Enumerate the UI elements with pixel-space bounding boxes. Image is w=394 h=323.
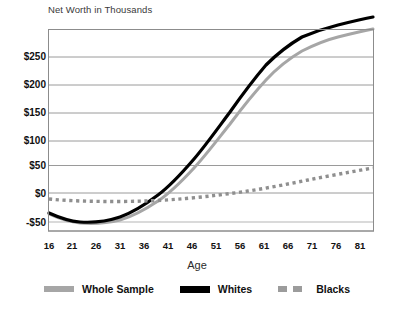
ytick-label-50: $50 <box>29 161 46 171</box>
legend-item-blacks: Blacks <box>278 283 350 295</box>
solid-black-line-icon <box>180 286 210 293</box>
ytick-label-0: $0 <box>35 189 46 199</box>
ytick-label-100: $100 <box>24 136 46 146</box>
chart-legend: Whole Sample Whites Blacks <box>0 283 394 295</box>
ytick-label-250: $250 <box>24 52 46 62</box>
xtick-label-71: 71 <box>301 241 323 251</box>
xtick-label-26: 26 <box>85 241 107 251</box>
legend-label-whole-sample: Whole Sample <box>82 283 154 295</box>
legend-item-whites: Whites <box>180 283 252 295</box>
x-axis-title: Age <box>0 259 394 271</box>
plot-area <box>0 0 394 323</box>
ytick-label-200: $200 <box>24 80 46 90</box>
xtick-label-81: 81 <box>349 241 371 251</box>
xtick-label-56: 56 <box>229 241 251 251</box>
ytick-label-neg50: -$50 <box>26 218 46 228</box>
xtick-label-66: 66 <box>277 241 299 251</box>
xtick-label-36: 36 <box>133 241 155 251</box>
xtick-label-61: 61 <box>253 241 275 251</box>
xtick-label-46: 46 <box>181 241 203 251</box>
chart-figure: Net Worth in Thousands $250 $200 $150 $1… <box>0 0 394 323</box>
xtick-label-31: 31 <box>109 241 131 251</box>
xtick-label-21: 21 <box>61 241 83 251</box>
ytick-label-150: $150 <box>24 108 46 118</box>
dashed-gray-line-icon <box>278 286 308 292</box>
xtick-label-51: 51 <box>205 241 227 251</box>
legend-label-whites: Whites <box>218 283 252 295</box>
xtick-label-76: 76 <box>325 241 347 251</box>
solid-gray-line-icon <box>44 286 74 292</box>
legend-label-blacks: Blacks <box>316 283 350 295</box>
xtick-label-16: 16 <box>38 241 60 251</box>
legend-item-whole-sample: Whole Sample <box>44 283 154 295</box>
xtick-label-41: 41 <box>157 241 179 251</box>
